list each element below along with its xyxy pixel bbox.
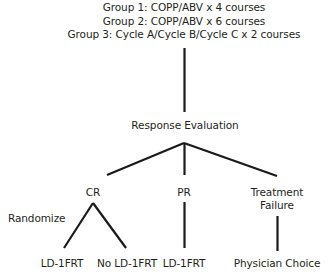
treatment-failure-line1: Treatment <box>242 186 312 199</box>
outcome-cr-ld1frt: LD-1FRT <box>41 257 84 270</box>
node-cr: CR <box>86 186 100 199</box>
outcome-pr-ld1frt: LD-1FRT <box>163 257 206 270</box>
node-treatment-failure: Treatment Failure <box>242 186 312 212</box>
edge-cr-to-ldfrt <box>64 203 93 248</box>
treatment-groups-block: Group 1: COPP/ABV x 4 courses Group 2: C… <box>68 1 301 42</box>
treatment-failure-line2: Failure <box>242 199 312 212</box>
edge-response-to-treatment-failure <box>184 143 277 176</box>
clinical-trial-flow-diagram: Group 1: COPP/ABV x 4 courses Group 2: C… <box>0 0 332 278</box>
edge-response-to-cr <box>107 143 184 175</box>
treatment-group-1: Group 1: COPP/ABV x 4 courses <box>68 1 301 15</box>
node-pr: PR <box>177 186 190 199</box>
treatment-group-2: Group 2: COPP/ABV x 6 courses <box>68 15 301 29</box>
outcome-physician-choice: Physician Choice <box>234 257 321 270</box>
node-response-evaluation: Response Evaluation <box>131 119 238 132</box>
label-randomize: Randomize <box>8 212 65 225</box>
edge-cr-to-no-ldfrt <box>93 203 126 248</box>
treatment-group-3: Group 3: Cycle A/Cycle B/Cycle C x 2 cou… <box>68 28 301 42</box>
outcome-cr-no-ld1frt: No LD-1FRT <box>97 257 157 270</box>
